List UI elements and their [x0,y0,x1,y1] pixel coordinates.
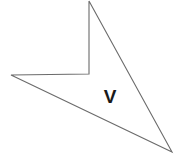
polygon-figure-svg: V [0,0,175,156]
concave-quadrilateral-polygon [11,1,172,152]
polygon-label-v: V [104,86,117,107]
figure-canvas: V [0,0,175,156]
